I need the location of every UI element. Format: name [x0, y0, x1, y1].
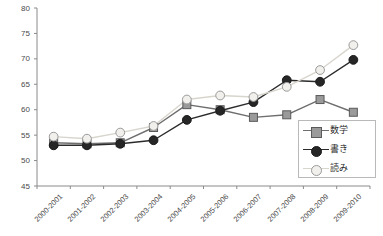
y-tick-label: 65 — [8, 80, 30, 89]
legend-label-math: 数学 — [330, 125, 349, 136]
chart-legend: 数学 書き 読み — [298, 120, 376, 178]
y-tick-label: 80 — [8, 4, 30, 13]
y-tick-label: 50 — [8, 156, 30, 165]
legend-label-reading: 読み — [330, 163, 349, 174]
y-tick-label: 70 — [8, 54, 30, 63]
filled-circle-marker-icon — [302, 143, 330, 157]
y-tick-label: 75 — [8, 29, 30, 38]
y-tick-label: 45 — [8, 182, 30, 191]
square-marker-icon — [302, 124, 330, 138]
y-tick-label: 55 — [8, 131, 30, 140]
y-tick-label: 60 — [8, 105, 30, 114]
legend-label-writing: 書き — [330, 144, 349, 155]
legend-item-writing[interactable]: 書き — [299, 140, 375, 159]
open-circle-marker-icon — [302, 162, 330, 176]
legend-item-reading[interactable]: 読み — [299, 159, 375, 178]
line-chart: 8075706560555045 2000-20012001-20022002-… — [0, 0, 383, 236]
legend-item-math[interactable]: 数学 — [299, 121, 375, 140]
